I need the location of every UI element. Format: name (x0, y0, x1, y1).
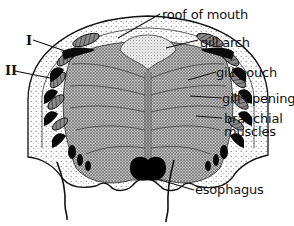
label-roman-II: II (5, 64, 17, 77)
label-gill-opening: gill opening (222, 92, 294, 105)
label-gill-pouch: gill pouch (216, 66, 277, 79)
esophagus-lumen (130, 157, 166, 181)
label-roof-of-mouth: roof of mouth (162, 8, 248, 21)
label-roman-I: I (26, 34, 32, 47)
label-esophagus: esophagus (195, 183, 264, 196)
label-gill-arch: gill arch (200, 36, 250, 49)
label-branchial-muscles-2: muscles (224, 125, 276, 138)
